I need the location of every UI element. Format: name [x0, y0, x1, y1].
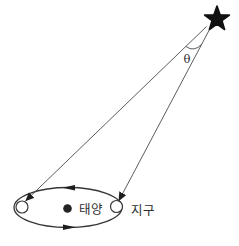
- orbit-direction-arrow-bottom-icon: [63, 225, 76, 231]
- sight-line-left: [26, 27, 207, 202]
- sun-dot-icon: [63, 204, 72, 213]
- parallax-angle-label: θ: [184, 52, 191, 66]
- earth-label: 지구: [131, 203, 155, 218]
- parallax-diagram-canvas: θ 태양 지구: [0, 0, 239, 246]
- parallax-diagram: θ 태양 지구: [0, 0, 239, 246]
- orbit-direction-arrow-top-icon: [63, 185, 76, 191]
- star-icon: [205, 6, 230, 30]
- earth-position-right-circle: [111, 201, 123, 213]
- earth-position-left-circle: [16, 201, 28, 213]
- sight-line-right: [119, 30, 210, 201]
- sun-label: 태양: [79, 202, 103, 217]
